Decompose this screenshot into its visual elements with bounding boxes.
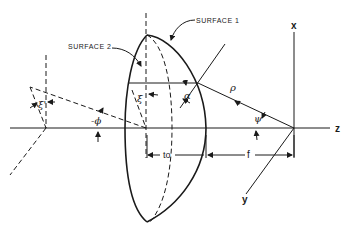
y-axis-label: y bbox=[242, 194, 248, 205]
thickness-label: to bbox=[163, 150, 171, 160]
lens-diagram: SURFACE 2 SURFACE 1 x y z ρ ψ α ξ ξ' -ϕ … bbox=[0, 0, 346, 231]
z-axis-label: z bbox=[335, 123, 340, 134]
psi-label: ψ bbox=[254, 113, 262, 124]
surface-1-label: SURFACE 1 bbox=[196, 17, 239, 24]
alpha-label: α bbox=[184, 90, 191, 101]
rho-label: ρ bbox=[229, 82, 236, 93]
dashed-line-a bbox=[30, 87, 146, 128]
ray-rho bbox=[198, 83, 294, 128]
xi-prime-label: ξ' bbox=[38, 99, 46, 110]
x-axis-label: x bbox=[291, 20, 297, 31]
xi-label: ξ bbox=[137, 93, 143, 104]
phi-label: -ϕ bbox=[91, 115, 101, 126]
focal-length-label: f bbox=[247, 149, 250, 160]
surface1-leader bbox=[171, 20, 195, 40]
surface-2-label: SURFACE 2 bbox=[68, 43, 111, 50]
left-dashed-diagonal bbox=[10, 128, 46, 175]
y-axis bbox=[246, 128, 294, 194]
